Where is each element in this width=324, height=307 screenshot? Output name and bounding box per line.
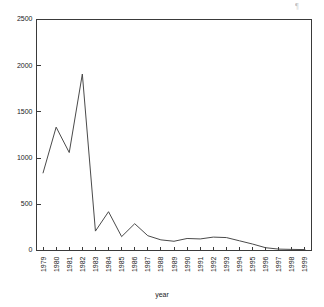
x-axis-tick-label: 1998 — [288, 256, 295, 272]
y-axis-tick-label: 2000 — [17, 62, 33, 69]
y-axis-tick-label: 2500 — [17, 15, 33, 22]
x-axis-tick-label: 1984 — [105, 256, 112, 272]
x-axis-tick-labels: 1979198019811982198319841985198619871988… — [40, 256, 309, 272]
x-axis-tick-label: 1979 — [40, 256, 47, 272]
x-axis-tick-label: 1992 — [210, 256, 217, 272]
y-axis-tick-labels: 05001000150020002500 — [17, 15, 33, 253]
x-axis-tick-label: 1994 — [236, 256, 243, 272]
x-axis-tick-label: 1991 — [197, 256, 204, 272]
x-axis-tick-label: 1996 — [262, 256, 269, 272]
plot-frame — [37, 20, 312, 251]
x-axis-tick-label: 1999 — [301, 256, 308, 272]
x-axis-tick-label: 1986 — [131, 256, 138, 272]
y-axis-tick-label: 1500 — [17, 108, 33, 115]
y-axis-ticks — [37, 20, 41, 251]
y-axis-tick-label: 500 — [21, 200, 33, 207]
x-axis-tick-label: 1983 — [92, 256, 99, 272]
data-series-count — [43, 74, 305, 250]
x-axis-tick-label: 1987 — [144, 256, 151, 272]
chart-figure: ¶ 05001000150020002500 19791980198119821… — [0, 0, 324, 307]
y-axis-tick-label: 0 — [29, 246, 33, 253]
x-axis-tick-label: 1982 — [79, 256, 86, 272]
x-axis-tick-label: 1981 — [66, 256, 73, 272]
line-chart-svg: 05001000150020002500 1979198019811982198… — [0, 0, 324, 307]
x-axis-tick-label: 1990 — [184, 256, 191, 272]
x-axis-tick-label: 1985 — [118, 256, 125, 272]
x-axis-tick-label: 1988 — [157, 256, 164, 272]
x-axis-tick-label: 1997 — [275, 256, 282, 272]
y-axis-tick-label: 1000 — [17, 154, 33, 161]
x-axis-tick-label: 1993 — [223, 256, 230, 272]
x-axis-tick-label: 1989 — [171, 256, 178, 272]
x-axis-ticks — [43, 247, 305, 251]
x-axis-title: year — [155, 291, 169, 299]
corner-mark-icon: ¶ — [295, 2, 302, 11]
x-axis-tick-label: 1980 — [53, 256, 60, 272]
x-axis-tick-label: 1995 — [249, 256, 256, 272]
